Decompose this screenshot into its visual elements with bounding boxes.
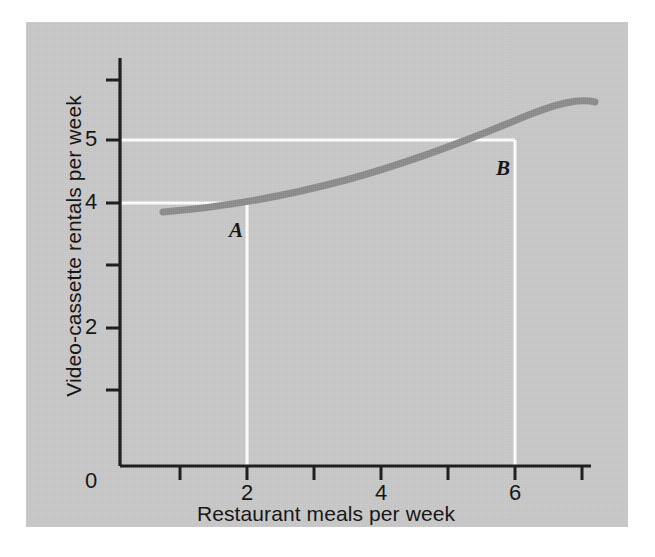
y-axis-title: Video-cassette rentals per week [62,66,86,426]
chart-plot-area [26,22,628,527]
indifference-curve [163,101,595,212]
point-label-b: B [496,156,510,181]
y-axis-ticks [106,80,120,390]
y-tick-label-0: 0 [76,468,106,494]
chart-panel: 5 4 2 0 2 4 6 A B Video-cassette rentals… [26,22,628,527]
point-label-a: A [229,218,243,243]
x-axis-ticks [180,466,582,480]
x-axis-title: Restaurant meals per week [116,502,536,526]
figure-page: 5 4 2 0 2 4 6 A B Video-cassette rentals… [0,0,655,557]
